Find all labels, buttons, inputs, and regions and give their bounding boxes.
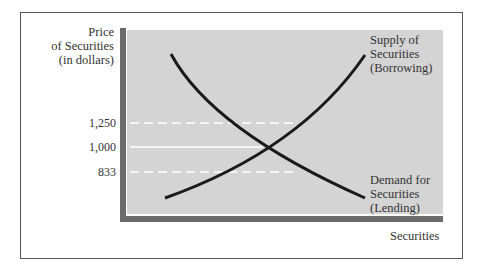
supply-line3: (Borrowing) <box>370 61 433 75</box>
supply-label: Supply of Securities (Borrowing) <box>370 33 433 75</box>
tick-1000: 1,000 <box>66 140 116 155</box>
x-axis <box>120 216 443 222</box>
y-label-line3: (in dollars) <box>51 53 114 67</box>
demand-label: Demand for Securities (Lending) <box>370 173 430 215</box>
supply-line1: Supply of <box>370 33 433 47</box>
demand-line1: Demand for <box>370 173 430 187</box>
demand-line2: Securities <box>370 187 430 201</box>
supply-line2: Securities <box>370 47 433 61</box>
tick-833: 833 <box>66 165 116 180</box>
y-axis-label: Price of Securities (in dollars) <box>51 25 114 67</box>
y-label-line1: Price <box>51 25 114 39</box>
tick-1250: 1,250 <box>66 116 116 131</box>
x-axis-label: Securities <box>390 229 439 243</box>
demand-line3: (Lending) <box>370 201 430 215</box>
y-label-line2: of Securities <box>51 39 114 53</box>
y-axis <box>120 28 126 222</box>
